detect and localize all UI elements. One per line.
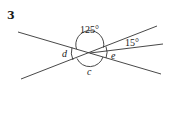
angles-diagram: 125° 15° d e c bbox=[0, 0, 171, 136]
label-e: e bbox=[111, 50, 116, 61]
angle-arc-left bbox=[71, 48, 73, 61]
label-15: 15° bbox=[125, 37, 139, 48]
label-d: d bbox=[62, 48, 68, 59]
label-125: 125° bbox=[80, 24, 99, 35]
angle-arc-right bbox=[106, 47, 107, 59]
label-c: c bbox=[87, 66, 92, 77]
